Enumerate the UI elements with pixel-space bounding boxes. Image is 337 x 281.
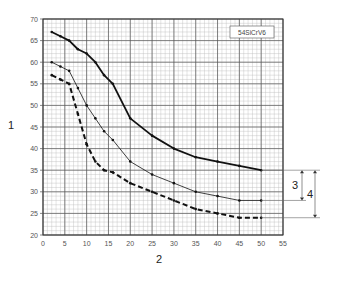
data-point <box>50 31 53 34</box>
y-tick-label: 70 <box>30 16 38 23</box>
major-grid <box>43 19 283 235</box>
data-point <box>216 195 219 198</box>
y-tick-label: 25 <box>30 210 38 217</box>
x-tick-label: 5 <box>63 240 67 247</box>
y-tick-label: 45 <box>30 124 38 131</box>
data-point <box>129 160 132 163</box>
data-point <box>194 208 197 211</box>
chart: 2025303540455055606570 05101520253035404… <box>0 0 337 281</box>
data-point <box>50 74 53 77</box>
data-point <box>216 212 219 215</box>
data-point <box>50 61 53 64</box>
x-tick-label: 25 <box>148 240 156 247</box>
data-point <box>112 139 115 142</box>
data-point <box>94 61 97 64</box>
data-point <box>151 173 154 176</box>
data-point <box>59 35 62 38</box>
x-tick-label: 35 <box>192 240 200 247</box>
y-tick-label: 30 <box>30 188 38 195</box>
data-point <box>103 74 106 77</box>
data-point <box>238 216 241 219</box>
data-point <box>68 39 71 42</box>
data-point <box>151 191 154 194</box>
data-point <box>85 52 88 55</box>
x-tick-label: 0 <box>41 240 45 247</box>
data-point <box>94 117 97 120</box>
data-point <box>77 48 80 51</box>
data-point <box>77 87 80 90</box>
x-tick-label: 40 <box>214 240 222 247</box>
data-point <box>173 199 176 202</box>
data-point <box>103 169 106 172</box>
data-point <box>173 182 176 185</box>
data-point <box>85 104 88 107</box>
data-point <box>194 191 197 194</box>
x-tick-label: 55 <box>279 240 287 247</box>
x-tick-label: 45 <box>235 240 243 247</box>
data-point <box>238 199 241 202</box>
x-tick-label: 15 <box>105 240 113 247</box>
y-tick-label: 35 <box>30 167 38 174</box>
y-tick-label: 65 <box>30 37 38 44</box>
data-point <box>216 160 219 163</box>
x-tick-label: 10 <box>83 240 91 247</box>
y-tick-label: 20 <box>30 232 38 239</box>
data-point <box>103 130 106 133</box>
y-axis-label: 1 <box>8 119 14 131</box>
data-point <box>68 70 71 73</box>
x-tick-label: 30 <box>170 240 178 247</box>
x-axis-ticks: 0510152025303540455055 <box>41 240 287 247</box>
x-tick-label: 50 <box>257 240 265 247</box>
data-point <box>129 182 132 185</box>
data-point <box>68 83 71 86</box>
data-point <box>59 78 62 81</box>
data-point <box>238 165 241 168</box>
data-point <box>129 117 132 120</box>
y-tick-label: 60 <box>30 59 38 66</box>
data-point <box>94 160 97 163</box>
data-point <box>151 134 154 137</box>
y-tick-label: 55 <box>30 80 38 87</box>
data-point <box>85 143 88 146</box>
data-point <box>194 156 197 159</box>
y-axis-ticks: 2025303540455055606570 <box>30 16 43 239</box>
legend-box: 54SiCrV6 <box>230 26 274 38</box>
legend-label: 54SiCrV6 <box>238 29 266 36</box>
annotation-3-label: 3 <box>292 179 298 191</box>
x-tick-label: 20 <box>126 240 134 247</box>
annotation-4-label: 4 <box>307 188 313 200</box>
y-tick-label: 40 <box>30 145 38 152</box>
data-point <box>112 83 115 86</box>
x-axis-label: 2 <box>156 253 162 265</box>
data-point <box>59 65 62 68</box>
data-point <box>112 171 115 174</box>
y-tick-label: 50 <box>30 102 38 109</box>
data-point <box>77 113 80 116</box>
data-point <box>173 147 176 150</box>
